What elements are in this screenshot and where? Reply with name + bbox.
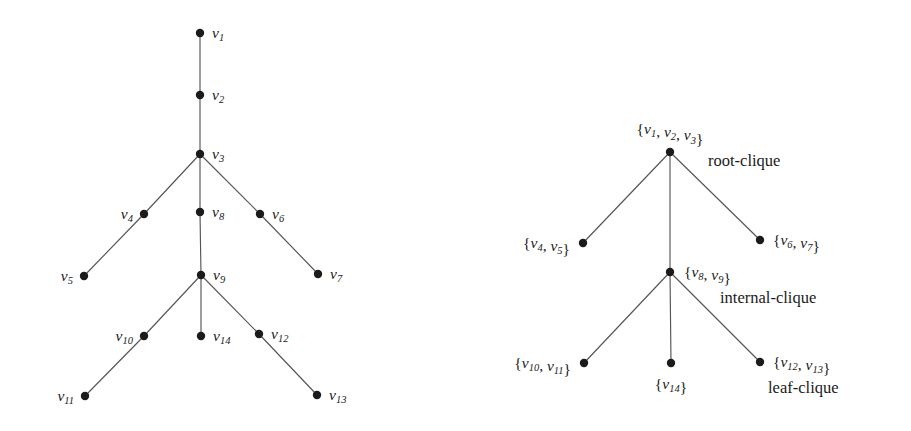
node-v2[interactable] xyxy=(196,91,204,99)
node-v1[interactable] xyxy=(196,29,204,37)
node-c7[interactable] xyxy=(756,358,764,366)
node-v6[interactable] xyxy=(256,210,264,218)
node-v14[interactable] xyxy=(197,332,205,340)
ann-root: root-clique xyxy=(708,151,780,170)
node-v9[interactable] xyxy=(197,271,205,279)
node-c5[interactable] xyxy=(580,359,588,367)
node-v13[interactable] xyxy=(313,391,321,399)
node-v10[interactable] xyxy=(140,332,148,340)
node-v11[interactable] xyxy=(81,392,89,400)
node-c2[interactable] xyxy=(579,239,587,247)
node-v3[interactable] xyxy=(196,150,204,158)
node-c1[interactable] xyxy=(666,148,674,156)
node-v12[interactable] xyxy=(255,330,263,338)
node-c3[interactable] xyxy=(756,236,764,244)
node-v5[interactable] xyxy=(80,272,88,280)
ann-internal: internal-clique xyxy=(720,288,816,307)
node-v7[interactable] xyxy=(314,270,322,278)
node-c4[interactable] xyxy=(666,268,674,276)
node-v4[interactable] xyxy=(140,210,148,218)
node-c6[interactable] xyxy=(667,359,675,367)
node-v8[interactable] xyxy=(196,208,204,216)
figure-canvas: v1v2v3v4v5v6v7v8v9v10v11v12v13v14 {v1, v… xyxy=(0,0,911,431)
ann-leaf: leaf-clique xyxy=(768,378,839,397)
